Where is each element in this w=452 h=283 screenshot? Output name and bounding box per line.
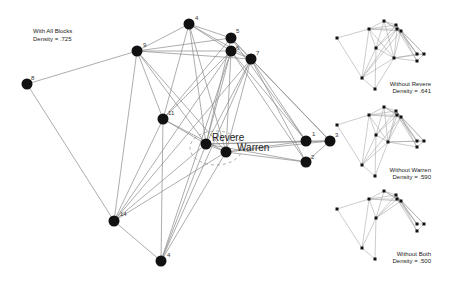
label-node-3: 3 — [335, 132, 339, 138]
label-node-warren: Warren — [237, 142, 269, 153]
subgraph-title-without-both: Without Both — [397, 251, 431, 257]
node-2[interactable] — [301, 157, 312, 168]
subgraph-title-without-revere: Without Revere — [390, 81, 432, 87]
main-graph-nodes — [22, 19, 336, 267]
node-1[interactable] — [301, 136, 312, 147]
node-5[interactable] — [226, 33, 237, 44]
node-warren[interactable] — [221, 147, 232, 158]
label-node-7: 7 — [256, 50, 260, 56]
label-node-1: 1 — [312, 131, 316, 137]
main-graph-edges — [27, 24, 330, 261]
subgraph-without-revere: Without Revere Density = .641 — [336, 20, 432, 95]
node-7[interactable] — [246, 54, 257, 65]
node-14[interactable] — [109, 216, 120, 227]
label-node-11: 11 — [168, 110, 175, 116]
node-11[interactable] — [158, 114, 169, 125]
node-6[interactable] — [226, 46, 237, 57]
main-graph-labels: 8 9 4 5 6 7 11 Revere Warren 1 3 2 14 4 — [31, 15, 339, 258]
node-3[interactable] — [325, 136, 336, 147]
node-9[interactable] — [132, 46, 143, 57]
label-node-5: 5 — [236, 28, 240, 34]
subgraph-without-both: Without Both Density = .500 — [336, 190, 432, 265]
node-revere[interactable] — [201, 139, 212, 150]
subgraph-without-warren: Without Warren Density = .590 — [336, 106, 432, 181]
node-4-top[interactable] — [184, 19, 195, 30]
subgraph-density-without-both: Density = .500 — [392, 258, 431, 264]
network-diagram: 8 9 4 5 6 7 11 Revere Warren 1 3 2 14 4 … — [0, 0, 452, 283]
main-graph-title: With All Blocks — [33, 28, 72, 34]
label-node-8: 8 — [31, 75, 35, 81]
subgraph-density-without-revere: Density = .641 — [392, 88, 431, 94]
label-node-4-bottom: 4 — [167, 252, 171, 258]
label-node-4-top: 4 — [195, 15, 199, 21]
subgraph-title-without-warren: Without Warren — [390, 167, 431, 173]
label-node-9: 9 — [143, 42, 147, 48]
label-node-14: 14 — [120, 211, 127, 217]
subgraph-density-without-warren: Density = .590 — [392, 174, 431, 180]
main-graph-density: Density = .725 — [33, 36, 72, 42]
node-4-bottom[interactable] — [156, 256, 167, 267]
